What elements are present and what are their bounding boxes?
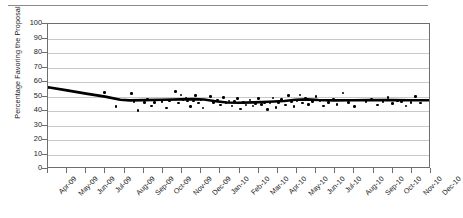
y-axis-tick-labels: 0102030405060708090100 [16, 0, 42, 218]
y-tick-label: 20 [34, 135, 42, 142]
x-tick-label: Feb-10 [249, 175, 271, 197]
x-tick-label: Dec-09 [211, 175, 233, 197]
x-tick-label: Sep-09 [154, 175, 176, 197]
y-tickmark [42, 110, 47, 111]
x-tick-label: Jul-09 [114, 175, 134, 195]
x-tick-label: Jul-10 [344, 175, 364, 195]
x-tick-label: Aug-09 [134, 175, 156, 197]
trend-line [48, 24, 429, 167]
plot-area [47, 23, 430, 168]
x-tickmark [411, 168, 412, 173]
x-tick-label: Aug-10 [364, 175, 386, 197]
y-tickmark [42, 52, 47, 53]
y-tick-label: 40 [34, 106, 42, 113]
x-tick-label: Jun-10 [326, 175, 347, 196]
x-tickmark [47, 168, 48, 173]
y-tickmark [42, 154, 47, 155]
x-tickmark [143, 168, 144, 173]
x-tick-label: Sep-10 [383, 175, 405, 197]
x-tickmark [162, 168, 163, 173]
y-tickmark [42, 23, 47, 24]
x-tickmark [430, 168, 431, 173]
x-tickmark [373, 168, 374, 173]
x-tick-label: Oct-09 [172, 175, 193, 196]
x-tick-label: Nov-09 [192, 175, 214, 197]
x-tickmark [258, 168, 259, 173]
y-tick-label: 100 [30, 19, 42, 26]
x-tickmark [239, 168, 240, 173]
x-tick-label: Mar-10 [268, 175, 290, 197]
y-tickmark [42, 81, 47, 82]
x-tickmark [66, 168, 67, 173]
x-tickmark [315, 168, 316, 173]
x-tickmark [181, 168, 182, 173]
top-divider-rule [8, 5, 428, 6]
y-tick-label: 10 [34, 150, 42, 157]
y-tickmark [42, 139, 47, 140]
y-tickmark [42, 96, 47, 97]
x-tick-label: Nov-10 [422, 175, 444, 197]
y-tick-label: 80 [34, 48, 42, 55]
x-tick-label: Apr-09 [57, 175, 78, 196]
x-tickmark [200, 168, 201, 173]
x-tickmark [353, 168, 354, 173]
x-tickmark [124, 168, 125, 173]
x-tick-label: Oct-10 [402, 175, 423, 196]
y-tick-label: 90 [34, 34, 42, 41]
y-tick-label: 70 [34, 63, 42, 70]
x-tickmark [219, 168, 220, 173]
y-tickmark [42, 38, 47, 39]
y-tick-label: 50 [34, 92, 42, 99]
x-tick-label: Dec-10 [441, 175, 463, 197]
x-tick-label: May-10 [307, 175, 330, 198]
y-tick-label: 60 [34, 77, 42, 84]
x-tickmark [277, 168, 278, 173]
y-tick-label: 30 [34, 121, 42, 128]
x-tickmark [296, 168, 297, 173]
x-tick-label: Apr-10 [287, 175, 308, 196]
x-tick-label: Jan-10 [230, 175, 251, 196]
y-tickmark [42, 125, 47, 126]
x-tickmark [85, 168, 86, 173]
x-tickmark [104, 168, 105, 173]
x-tickmark [334, 168, 335, 173]
y-tickmark [42, 67, 47, 68]
x-tickmark [392, 168, 393, 173]
